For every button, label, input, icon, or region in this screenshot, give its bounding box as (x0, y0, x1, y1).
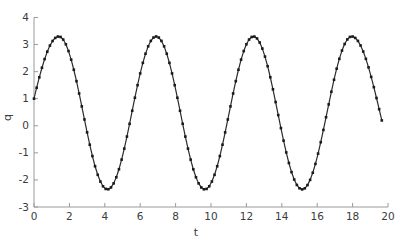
data-point-marker (35, 86, 38, 89)
x-tick-label: 14 (275, 210, 289, 222)
data-point-marker (54, 37, 57, 40)
data-point-marker (80, 105, 83, 108)
data-point-marker (293, 178, 296, 181)
data-point-marker (306, 184, 309, 187)
data-point-marker (173, 84, 176, 87)
data-point-marker (41, 66, 44, 69)
y-axis-label: q (2, 114, 13, 121)
data-point-marker (176, 96, 179, 99)
data-point-markers (33, 35, 383, 191)
data-point-marker (99, 180, 102, 183)
y-tick-label: 3 (22, 38, 29, 50)
data-point-marker (150, 40, 153, 43)
data-point-marker (181, 123, 184, 126)
data-point-marker (256, 37, 259, 40)
data-point-marker (83, 118, 86, 121)
data-point-marker (322, 129, 325, 132)
data-point-marker (232, 92, 235, 95)
data-point-marker (375, 97, 378, 100)
y-tick-label: -3 (19, 201, 29, 213)
data-point-marker (168, 62, 171, 65)
data-point-marker (343, 43, 346, 46)
data-point-marker (123, 147, 126, 150)
data-point-marker (75, 80, 78, 83)
data-point-marker (290, 171, 293, 174)
data-point-marker (200, 186, 203, 189)
data-point-marker (381, 119, 384, 122)
data-point-marker (171, 72, 174, 75)
data-point-marker (335, 67, 338, 70)
line-chart-figure: 02468101214161820-3-2-101234 t q (0, 0, 412, 245)
data-point-marker (304, 187, 307, 190)
data-point-marker (338, 58, 341, 61)
data-point-marker (136, 84, 139, 87)
data-point-marker (155, 35, 158, 38)
x-tick-label: 10 (204, 210, 217, 222)
y-tick-label: -2 (19, 173, 29, 185)
data-point-marker (219, 155, 222, 158)
data-point-marker (46, 50, 49, 53)
data-point-marker (298, 187, 301, 190)
data-point-marker (365, 58, 368, 61)
data-point-marker (274, 101, 277, 104)
data-point-marker (65, 43, 68, 46)
data-point-marker (330, 90, 333, 93)
data-point-marker (224, 131, 227, 134)
data-point-marker (112, 182, 115, 185)
data-point-marker (245, 43, 248, 46)
data-point-marker (152, 36, 155, 39)
data-point-marker (309, 179, 312, 182)
data-point-marker (280, 127, 283, 130)
data-point-marker (250, 36, 253, 39)
plot-canvas: 02468101214161820-3-2-101234 (0, 0, 412, 245)
data-point-marker (282, 139, 285, 142)
data-point-marker (134, 96, 137, 99)
data-point-marker (327, 103, 330, 106)
data-point-marker (107, 188, 110, 191)
data-point-marker (78, 92, 81, 95)
data-point-marker (240, 58, 243, 61)
data-point-marker (373, 86, 376, 89)
x-tick-label: 18 (346, 210, 359, 222)
data-point-marker (189, 158, 192, 161)
data-point-marker (73, 68, 76, 71)
data-point-marker (33, 97, 36, 100)
data-point-marker (96, 174, 99, 177)
data-point-marker (317, 152, 320, 155)
data-point-marker (49, 44, 52, 47)
data-point-marker (51, 40, 54, 43)
data-point-marker (269, 76, 272, 79)
y-tick-label: -1 (19, 146, 29, 158)
x-tick-label: 16 (311, 210, 325, 222)
data-point-marker (266, 65, 269, 68)
data-point-marker (378, 108, 381, 111)
data-point-marker (110, 186, 113, 189)
data-point-marker (370, 76, 373, 79)
x-tick-label: 4 (101, 210, 108, 222)
data-point-marker (43, 58, 46, 61)
data-point-marker (216, 165, 219, 168)
data-point-marker (288, 162, 291, 165)
data-point-marker (157, 36, 160, 39)
data-point-marker (144, 52, 147, 55)
data-point-marker (179, 109, 182, 112)
x-tick-label: 6 (137, 210, 144, 222)
data-point-marker (195, 176, 198, 179)
data-point-marker (248, 38, 251, 41)
data-point-marker (211, 180, 214, 183)
data-point-marker (62, 38, 65, 41)
data-point-marker (346, 38, 349, 41)
data-point-marker (208, 185, 211, 188)
data-point-marker (165, 52, 168, 55)
data-point-marker (126, 135, 129, 138)
data-point-marker (314, 163, 317, 166)
x-tick-label: 8 (172, 210, 179, 222)
data-point-marker (253, 35, 256, 38)
data-point-marker (349, 36, 352, 39)
data-point-marker (147, 45, 150, 48)
data-point-marker (115, 176, 118, 179)
data-point-marker (296, 184, 299, 187)
x-axis-label: t (0, 227, 392, 238)
data-point-marker (118, 168, 121, 171)
data-point-marker (102, 185, 105, 188)
